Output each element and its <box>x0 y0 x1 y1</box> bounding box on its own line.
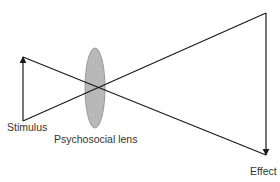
psychosocial-lens-shape <box>85 48 105 128</box>
diagram-canvas <box>0 0 280 182</box>
psychosocial-lens-label: Psychosocial lens <box>54 133 137 145</box>
psychosocial-lens-diagram: Stimulus Psychosocial lens Effect <box>0 0 280 182</box>
effect-label: Effect <box>250 165 277 177</box>
stimulus-label: Stimulus <box>7 121 47 133</box>
ray-bottom-to-top <box>23 13 266 121</box>
